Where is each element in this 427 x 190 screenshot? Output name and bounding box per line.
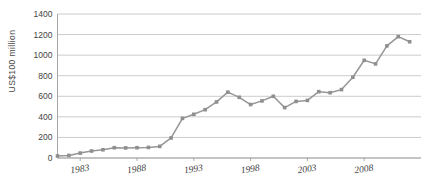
data-point-marker bbox=[147, 146, 151, 150]
x-tick-label: 1988 bbox=[126, 163, 146, 176]
data-point-marker bbox=[306, 99, 310, 103]
data-point-marker bbox=[124, 146, 128, 150]
data-point-marker bbox=[237, 96, 241, 100]
data-point-marker bbox=[249, 103, 253, 107]
data-point-marker bbox=[272, 94, 276, 98]
chart-plot-area: 0200400600800100012001400 19831988199319… bbox=[0, 0, 427, 190]
data-point-marker bbox=[340, 88, 344, 92]
line-chart: US$100 million 0200400600800100012001400… bbox=[0, 0, 427, 190]
data-point-marker bbox=[408, 40, 412, 44]
y-tick-label: 1400 bbox=[34, 9, 53, 19]
data-point-marker bbox=[56, 154, 60, 158]
x-tick-labels-group: 198319881993199820032008 bbox=[70, 163, 374, 176]
data-point-marker bbox=[385, 44, 389, 48]
data-point-marker bbox=[192, 112, 196, 116]
data-point-marker bbox=[112, 146, 116, 150]
axis-lines-group bbox=[58, 14, 422, 158]
y-tick-label: 800 bbox=[38, 71, 52, 81]
data-point-marker bbox=[351, 75, 355, 79]
data-point-marker bbox=[294, 100, 298, 104]
data-point-marker bbox=[362, 58, 366, 62]
data-point-marker bbox=[215, 100, 219, 104]
data-point-marker bbox=[203, 108, 207, 112]
x-tick-label: 2003 bbox=[297, 163, 317, 176]
data-point-marker bbox=[169, 136, 173, 140]
y-tick-labels-group: 0200400600800100012001400 bbox=[34, 9, 53, 163]
data-point-marker bbox=[396, 35, 400, 39]
data-point-marker bbox=[158, 145, 162, 149]
data-point-marker bbox=[90, 149, 94, 153]
y-tick-label: 1200 bbox=[34, 30, 53, 40]
y-tick-label: 1000 bbox=[34, 50, 53, 60]
data-point-marker bbox=[328, 91, 332, 95]
data-point-marker bbox=[67, 154, 71, 158]
data-point-marker bbox=[181, 117, 185, 121]
data-point-marker bbox=[226, 90, 230, 94]
data-point-marker bbox=[78, 151, 82, 155]
x-tick-label: 1998 bbox=[240, 163, 260, 176]
x-tick-label: 1983 bbox=[70, 163, 90, 176]
y-tick-label: 0 bbox=[48, 153, 53, 163]
x-tick-label: 2008 bbox=[354, 163, 374, 176]
x-tick-label: 1993 bbox=[183, 163, 203, 176]
data-point-marker bbox=[317, 90, 321, 94]
gridlines-group bbox=[58, 14, 422, 158]
data-point-marker bbox=[283, 106, 287, 110]
y-tick-label: 400 bbox=[38, 112, 52, 122]
data-point-marker bbox=[101, 148, 105, 152]
data-point-marker bbox=[135, 146, 139, 150]
data-point-marker bbox=[374, 62, 378, 66]
y-tick-label: 200 bbox=[38, 132, 52, 142]
data-point-marker bbox=[260, 99, 264, 103]
y-tick-label: 600 bbox=[38, 91, 52, 101]
